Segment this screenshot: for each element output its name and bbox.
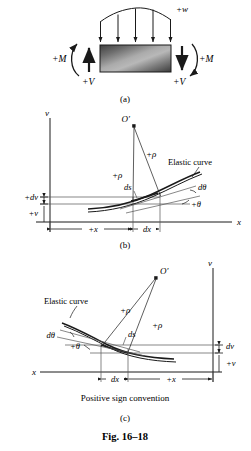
label-radius-right-c: +ρ [152,320,163,330]
label-radius-left-b: +ρ [112,170,123,180]
label-distributed-load: +w [176,4,188,14]
label-radius-right-b: +ρ [146,149,157,159]
label-shear-right: +V [173,77,186,87]
figure-number: Fig. 16–18 [102,431,148,442]
label-center-point-c: O′ [160,266,169,276]
label-v-c: +v [226,358,236,368]
label-angle-b: +θ [191,199,201,209]
label-dx-b: dx [143,224,151,234]
beam-element [100,45,171,72]
label-v-axis-c: v [208,258,212,268]
label-moment-left: +M [52,54,67,64]
figure-16-18: +w +M +M +V +V (a) v x O′ +ρ +ρ [0,0,251,451]
label-x-dim-c: +x [166,374,176,384]
label-v-b: +v [28,208,38,218]
caption-panel-a: (a) [120,94,130,104]
label-x-axis-c: x [31,367,36,377]
label-moment-right: +M [199,54,214,64]
subcaption-panel-c: Positive sign convention [81,393,170,403]
label-shear-left: +V [82,77,95,87]
label-angle-c: +θ [70,341,80,351]
label-angle-increment-c: dθ [47,330,55,340]
label-v-axis-b: v [45,108,49,118]
caption-panel-c: (c) [120,413,130,423]
label-x-dim-b: +x [88,224,98,234]
label-dv-b: +dv [24,192,38,202]
label-center-point-b: O′ [122,114,131,124]
label-x-axis-b: x [236,217,241,227]
label-dx-c: dx [111,374,119,384]
label-dv-c: dv [226,341,234,351]
label-arc-length-c: ds [128,329,136,339]
label-arc-length-b: ds [124,182,132,192]
label-radius-left-c: +ρ [120,305,131,315]
caption-panel-b: (b) [120,240,131,250]
label-angle-increment-b: dθ [198,182,206,192]
label-elastic-curve-b: Elastic curve [168,157,212,167]
label-elastic-curve-c: Elastic curve [44,296,88,306]
